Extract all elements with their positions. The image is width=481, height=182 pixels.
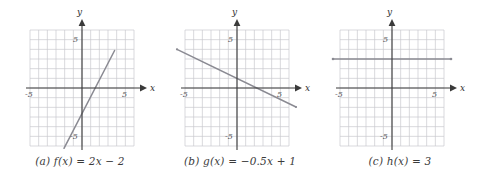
y-tick-neg5-b: -5 [225,132,233,141]
axes-b [181,19,302,150]
x-tick-pos5-b: 5 [277,90,282,99]
x-tick-neg5-b: -5 [180,90,188,99]
x-tick-neg5-a: -5 [25,90,33,99]
y-tick-neg5-c: -5 [380,132,388,141]
x-tick-neg5-c: -5 [335,90,343,99]
y-tick-pos5-a: 5 [73,35,78,44]
graph-panel-c: x y -5 5 5 -5 (c) h(x) = 3 [320,0,480,182]
y-axis-label-b: y [231,7,238,17]
x-tick-pos5-c: 5 [432,90,437,99]
y-axis-label-c: y [386,7,393,17]
caption-a: (a) f(x) = 2x − 2 [0,155,160,167]
caption-b: (b) g(x) = −0.5x + 1 [160,155,320,167]
x-axis-label-c: x [460,83,465,93]
y-tick-neg5-a: -5 [70,132,78,141]
graph-panel-a: x y -5 5 5 -5 (a) f(x) = 2x − 2 [0,0,160,182]
axes-a [26,19,147,150]
x-axis-label-a: x [150,83,155,93]
y-axis-label-a: y [76,7,83,17]
y-tick-pos5-b: 5 [228,35,233,44]
axes-c [336,19,457,150]
caption-c: (c) h(x) = 3 [320,155,480,167]
coordinate-plane-a: x y -5 5 5 -5 [0,2,160,154]
coordinate-plane-b: x y -5 5 5 -5 [160,2,320,154]
three-graph-figure: x y -5 5 5 -5 (a) f(x) = 2x − 2 [0,0,481,182]
coordinate-plane-c: x y -5 5 5 -5 [320,2,480,154]
x-tick-pos5-a: 5 [122,90,127,99]
y-tick-pos5-c: 5 [383,35,388,44]
graph-panel-b: x y -5 5 5 -5 (b) g(x) = −0.5x + 1 [160,0,320,182]
x-axis-label-b: x [305,83,310,93]
